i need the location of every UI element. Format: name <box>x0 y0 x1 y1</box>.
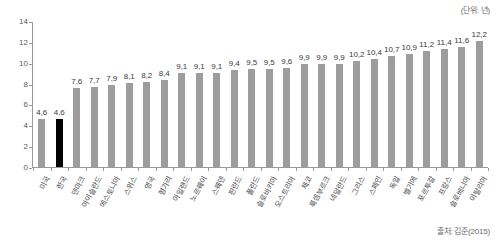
y-tick-label: 8 <box>6 81 28 89</box>
bar-slot: 11,4 <box>436 22 454 167</box>
bar[interactable] <box>213 73 220 167</box>
bar-value-label: 9,1 <box>194 63 205 71</box>
bar[interactable] <box>441 49 448 167</box>
bar[interactable] <box>406 54 413 167</box>
bar[interactable] <box>161 80 168 167</box>
x-tick-mark <box>208 168 209 171</box>
bar[interactable] <box>91 87 98 167</box>
y-tick-label: 12 <box>6 39 28 47</box>
bar-value-label: 7,7 <box>89 77 100 85</box>
x-axis-category-label: 체코 <box>298 174 314 191</box>
x-tick-mark <box>68 168 69 171</box>
bar[interactable] <box>143 82 150 167</box>
bar[interactable] <box>73 88 80 167</box>
x-tick-mark <box>261 168 262 171</box>
bar-slot: 7,7 <box>86 22 104 167</box>
bar[interactable] <box>353 61 360 167</box>
x-tick-mark <box>383 168 384 171</box>
bar[interactable] <box>248 69 255 167</box>
y-tick-label: 2 <box>6 143 28 151</box>
x-tick-mark <box>86 168 87 171</box>
bar-slot: 9,9 <box>331 22 349 167</box>
x-label-slot: 스위스 <box>121 172 139 230</box>
bar[interactable] <box>371 59 378 167</box>
x-tick-mark <box>103 168 104 171</box>
bar[interactable] <box>458 47 465 167</box>
y-tick-mark <box>29 22 32 23</box>
bar-value-label: 10,7 <box>384 46 400 54</box>
bar[interactable] <box>126 83 133 167</box>
bar-value-label: 8,2 <box>141 72 152 80</box>
bar[interactable] <box>266 69 273 167</box>
bar-value-label: 9,5 <box>246 59 257 67</box>
bar-slot: 8,2 <box>138 22 156 167</box>
x-label-slot: 노르웨이 <box>191 172 209 230</box>
bar[interactable] <box>476 41 483 167</box>
x-axis-category-label: 핀란드 <box>225 174 244 197</box>
bar[interactable] <box>301 64 308 167</box>
x-tick-mark <box>51 168 52 171</box>
bar-slot: 9,6 <box>278 22 296 167</box>
bar[interactable] <box>38 119 45 167</box>
bar-slot: 11,6 <box>453 22 471 167</box>
x-axis-category-label: 노르웨이 <box>187 174 209 203</box>
bar-series: 4,64,67,67,77,98,18,28,49,19,19,19,49,59… <box>33 22 488 167</box>
bar[interactable] <box>231 70 238 167</box>
x-axis-category-label: 스웨덴 <box>207 174 226 197</box>
source-note: 출처: 김준(2015) <box>437 225 490 236</box>
unit-note: (단위: 년) <box>461 4 490 15</box>
bar-value-label: 11,4 <box>437 39 452 47</box>
x-tick-mark <box>366 168 367 171</box>
y-tick-label: 6 <box>6 101 28 109</box>
x-label-slot: 미국 <box>33 172 51 230</box>
bar-value-label: 8,4 <box>159 70 170 78</box>
x-tick-mark <box>471 168 472 171</box>
bar-slot: 10,9 <box>401 22 419 167</box>
y-tick-mark <box>29 64 32 65</box>
bar[interactable] <box>283 68 290 167</box>
bar[interactable] <box>423 51 430 167</box>
x-tick-mark <box>488 168 489 171</box>
bar-value-label: 9,5 <box>264 59 275 67</box>
x-label-slot: 핀란드 <box>226 172 244 230</box>
bar-slot: 9,9 <box>296 22 314 167</box>
bar[interactable] <box>336 64 343 167</box>
x-label-slot: 오스트리아 <box>278 172 296 230</box>
bar[interactable] <box>196 73 203 167</box>
bar[interactable] <box>318 64 325 167</box>
bar[interactable] <box>108 85 115 167</box>
bar-value-label: 10,2 <box>349 51 365 59</box>
bar-slot: 10,2 <box>348 22 366 167</box>
x-tick-mark <box>226 168 227 171</box>
bar-value-label: 9,9 <box>299 54 310 62</box>
bar-value-label: 9,1 <box>176 63 187 71</box>
bar[interactable] <box>388 56 395 167</box>
x-tick-mark <box>348 168 349 171</box>
bar-value-label: 9,4 <box>229 60 240 68</box>
bar-slot: 9,1 <box>208 22 226 167</box>
bar-value-label: 4,6 <box>54 109 65 117</box>
bar-slot: 8,4 <box>156 22 174 167</box>
bar-slot: 10,7 <box>383 22 401 167</box>
bar[interactable] <box>56 119 63 167</box>
x-tick-mark <box>296 168 297 171</box>
x-tick-mark <box>313 168 314 171</box>
x-axis-category-label: 이탈리아 <box>467 174 489 203</box>
x-axis-category-label: 미국 <box>35 174 51 191</box>
x-label-slot: 아일랜드 <box>173 172 191 230</box>
bar-slot: 7,6 <box>68 22 86 167</box>
x-tick-mark <box>156 168 157 171</box>
y-tick-label: 0 <box>6 164 28 172</box>
bar-value-label: 10,4 <box>366 49 382 57</box>
x-label-slot: 포르투갈 <box>418 172 436 230</box>
bar-slot: 9,1 <box>173 22 191 167</box>
bar-slot: 9,5 <box>261 22 279 167</box>
bar[interactable] <box>178 73 185 167</box>
bar-slot: 7,9 <box>103 22 121 167</box>
plot-area: 02468101214 4,64,67,67,77,98,18,28,49,19… <box>32 22 488 168</box>
bar-value-label: 9,6 <box>281 58 292 66</box>
bar-value-label: 7,6 <box>71 78 82 86</box>
x-label-slot: 이탈리아 <box>471 172 489 230</box>
bar-value-label: 9,9 <box>334 54 345 62</box>
bar-value-label: 7,9 <box>106 75 117 83</box>
